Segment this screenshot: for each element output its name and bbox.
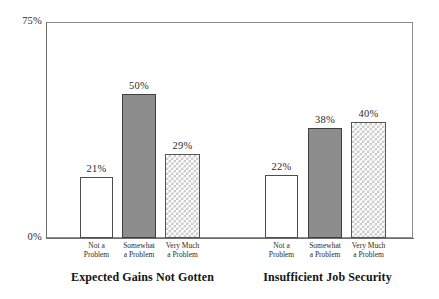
- group-title-expected-gains-not-gotten: Expected Gains Not Gotten: [45, 270, 240, 285]
- bar-job-security-very-much-a-problem[interactable]: [351, 122, 386, 238]
- x-tick-label-job-security-very-much-a-problem: Very Much a Problem: [343, 241, 394, 259]
- x-tick-label-line1: Very Much: [157, 241, 208, 250]
- x-tick-label-line2: a Problem: [343, 250, 394, 259]
- y-axis-tick-75: 75%: [2, 15, 42, 26]
- bar-expected-gains-somewhat-a-problem[interactable]: [122, 94, 156, 238]
- x-tick-label-line1: Not a: [257, 241, 306, 250]
- y-axis-line: [46, 22, 47, 239]
- bar-value-job-security-somewhat-a-problem: 38%: [304, 114, 346, 125]
- x-tick-label-line2: Problem: [257, 250, 306, 259]
- bar-value-job-security-very-much-a-problem: 40%: [348, 108, 389, 119]
- group-title-insufficient-job-security: Insufficient Job Security: [230, 270, 425, 285]
- x-tick-label-line1: Very Much: [343, 241, 394, 250]
- bar-value-expected-gains-very-much-a-problem: 29%: [162, 140, 203, 151]
- grouped-bar-chart: 75% 0% 21% 50% 29% Not a Problem Somewha…: [0, 0, 439, 299]
- bar-expected-gains-not-a-problem[interactable]: [80, 177, 113, 238]
- y-axis-tick-0: 0%: [2, 231, 42, 242]
- x-axis-line: [46, 238, 414, 239]
- bar-expected-gains-very-much-a-problem[interactable]: [165, 154, 200, 238]
- bar-value-expected-gains-not-a-problem: 21%: [76, 163, 117, 174]
- bar-value-expected-gains-somewhat-a-problem: 50%: [118, 80, 160, 91]
- x-tick-label-expected-gains-very-much-a-problem: Very Much a Problem: [157, 241, 208, 259]
- bar-job-security-somewhat-a-problem[interactable]: [308, 128, 342, 238]
- bar-value-job-security-not-a-problem: 22%: [261, 161, 302, 172]
- x-tick-label-job-security-not-a-problem: Not a Problem: [257, 241, 306, 259]
- x-tick-label-line2: a Problem: [157, 250, 208, 259]
- bar-job-security-not-a-problem[interactable]: [265, 175, 298, 238]
